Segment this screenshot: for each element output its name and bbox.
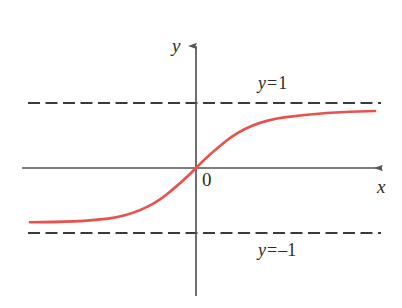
tanh-curve	[30, 111, 375, 222]
x-axis-label-text: x	[377, 176, 385, 197]
lower-asymptote-label-operator: =	[266, 240, 278, 260]
origin-label: 0	[202, 170, 212, 189]
upper-asymptote-label: y=1	[258, 74, 287, 92]
y-axis-label: y	[172, 36, 180, 55]
origin-label-text: 0	[202, 169, 212, 190]
upper-asymptote-label-value: 1	[278, 73, 287, 93]
lower-asymptote-label-variable: y	[258, 240, 266, 260]
plot-area	[0, 0, 402, 308]
x-axis-label: x	[377, 177, 385, 196]
figure-canvas: y x 0 y=1 y=–1	[0, 0, 402, 308]
upper-asymptote-label-variable: y	[258, 73, 266, 93]
upper-asymptote-label-operator: =	[266, 73, 278, 93]
lower-asymptote-label-value: –1	[278, 240, 296, 260]
y-axis-label-text: y	[172, 35, 180, 56]
lower-asymptote-label: y=–1	[258, 241, 296, 259]
